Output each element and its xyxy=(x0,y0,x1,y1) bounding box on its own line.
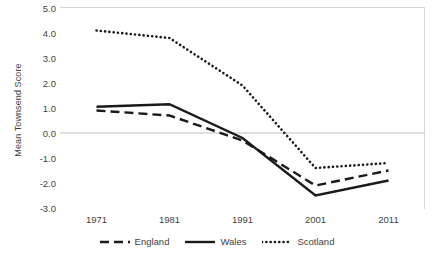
y-tick-label: 0.0 xyxy=(43,128,56,139)
legend-item-england[interactable]: England xyxy=(100,236,170,247)
x-tick-label: 1981 xyxy=(159,214,180,225)
y-tick-label: 1.0 xyxy=(43,103,56,114)
y-axis-tick-labels: 5.04.03.02.01.00.0-1.0-2.0-3.0 xyxy=(26,0,56,215)
y-tick-label: -3.0 xyxy=(40,203,56,214)
y-tick-label: -1.0 xyxy=(40,153,56,164)
legend-item-scotland[interactable]: Scotland xyxy=(262,236,334,247)
legend-swatch-wales-icon xyxy=(185,237,215,247)
legend-label: Wales xyxy=(220,236,246,247)
x-tick-label: 1991 xyxy=(232,214,253,225)
plot-area xyxy=(60,8,425,208)
y-tick-label: 4.0 xyxy=(43,28,56,39)
legend-item-wales[interactable]: Wales xyxy=(185,236,246,247)
chart-container: Mean Townsend Score 5.04.03.02.01.00.0-1… xyxy=(0,0,434,259)
series-line-scotland xyxy=(97,31,389,169)
series-lines xyxy=(60,8,425,208)
series-line-england xyxy=(97,111,389,186)
y-tick-label: 3.0 xyxy=(43,53,56,64)
y-tick-label: -2.0 xyxy=(40,178,56,189)
y-tick-label: 2.0 xyxy=(43,78,56,89)
x-axis-tick-labels: 19711981199120012011 xyxy=(60,214,425,230)
legend-swatch-scotland-icon xyxy=(262,237,292,247)
y-tick-label: 5.0 xyxy=(43,3,56,14)
x-tick-label: 1971 xyxy=(86,214,107,225)
x-tick-label: 2011 xyxy=(378,214,398,225)
chart-legend: EnglandWalesScotland xyxy=(0,236,434,247)
y-axis-title: Mean Townsend Score xyxy=(13,40,23,180)
legend-swatch-england-icon xyxy=(100,237,130,247)
series-line-wales xyxy=(97,104,389,195)
x-tick-label: 2001 xyxy=(305,214,326,225)
legend-label: Scotland xyxy=(297,236,334,247)
legend-label: England xyxy=(135,236,170,247)
